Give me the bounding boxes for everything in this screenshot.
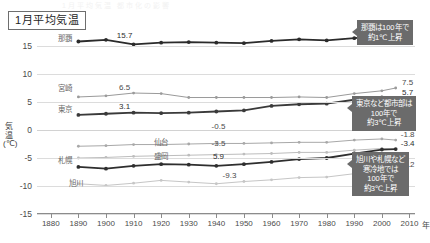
data-point-仙台-2005 bbox=[394, 139, 397, 142]
data-point-仙台-2000 bbox=[380, 138, 383, 141]
x-tick-label-1910: 1910 bbox=[125, 219, 143, 228]
urban-callout: 東京など都市部は100年で約3℃上昇 bbox=[352, 96, 416, 131]
gridline-y-10 bbox=[37, 74, 415, 75]
x-tick-label-2000: 2000 bbox=[373, 219, 391, 228]
urban-callout-line-1: 100年で bbox=[356, 109, 412, 119]
data-point-盛岡-1970 bbox=[298, 151, 301, 154]
y-tick-label-0: 0 bbox=[27, 125, 32, 135]
y-tick-label-15: 15 bbox=[23, 41, 32, 51]
x-tick-label-1960: 1960 bbox=[263, 219, 281, 228]
data-point-宮崎-1940 bbox=[215, 96, 218, 99]
cold-region-callout-line-3: 約3℃上昇 bbox=[356, 184, 405, 194]
data-point-東京-1920 bbox=[159, 111, 163, 115]
data-point-那覇-1950 bbox=[242, 41, 246, 45]
data-point-宮崎-1980 bbox=[325, 96, 328, 99]
data-point-宮崎-1970 bbox=[298, 96, 301, 99]
data-point-東京-1960 bbox=[270, 104, 274, 108]
chart-root: 1月平均気温 都市化の影響 1月平均気温 気温(℃) 151050-5-10-1… bbox=[0, 0, 430, 243]
cold-region-callout-tail bbox=[347, 160, 352, 168]
data-point-札幌-1890 bbox=[76, 165, 80, 169]
x-tick-label-1880: 1880 bbox=[42, 219, 60, 228]
x-tick-label-1940: 1940 bbox=[207, 219, 225, 228]
data-point-那覇-1930 bbox=[187, 40, 191, 44]
series-layer bbox=[37, 32, 337, 182]
end-value-label-宮崎: 7.5 bbox=[402, 78, 413, 87]
data-point-旭川-1970 bbox=[298, 176, 301, 179]
data-point-那覇-1890 bbox=[76, 40, 80, 44]
urban-callout-tail bbox=[347, 104, 352, 112]
x-tick-1990 bbox=[354, 214, 355, 218]
x-tick-1980 bbox=[327, 214, 328, 218]
data-point-宮崎-1910 bbox=[132, 92, 135, 95]
x-tick-label-1990: 1990 bbox=[345, 219, 363, 228]
data-point-那覇-1970 bbox=[297, 37, 301, 41]
x-tick-label-1890: 1890 bbox=[69, 219, 87, 228]
y-tick-label-5: 5 bbox=[27, 97, 32, 107]
naha-callout-line-1: 約1℃上昇 bbox=[361, 33, 409, 43]
end-value-label-仙台: -1.8 bbox=[401, 130, 415, 139]
data-point-札幌-1910 bbox=[132, 164, 136, 168]
y-tick-label--10: -10 bbox=[20, 181, 32, 191]
x-tick-1950 bbox=[244, 214, 245, 218]
data-point-東京-1950 bbox=[242, 109, 246, 113]
series-name-label-札幌: 札幌 bbox=[58, 154, 72, 165]
data-point-札幌-1900 bbox=[104, 167, 108, 171]
data-point-仙台-1890 bbox=[77, 145, 80, 148]
series-line-仙台 bbox=[78, 139, 395, 146]
data-point-札幌-1960 bbox=[270, 160, 274, 164]
end-value-label-札幌: -3.4 bbox=[401, 139, 415, 148]
x-tick-1930 bbox=[189, 214, 190, 218]
value-label-東京: 3.1 bbox=[119, 101, 130, 110]
x-tick-label-1930: 1930 bbox=[180, 219, 198, 228]
data-point-旭川-1960 bbox=[270, 178, 273, 181]
data-point-那覇-1900 bbox=[104, 38, 108, 42]
data-point-札幌-1930 bbox=[187, 163, 191, 167]
data-point-札幌-2005 bbox=[394, 147, 398, 151]
value-label-宮崎: 6.5 bbox=[119, 82, 130, 91]
x-tick-1900 bbox=[106, 214, 107, 218]
series-name-label-盛岡: 盛岡 bbox=[154, 149, 168, 160]
data-point-旭川-1940 bbox=[215, 182, 218, 185]
value-label-旭川: -9.3 bbox=[223, 171, 237, 180]
data-point-仙台-1900 bbox=[105, 144, 108, 147]
data-point-東京-1930 bbox=[187, 111, 191, 115]
data-point-宮崎-1960 bbox=[270, 96, 273, 99]
x-tick-label-1980: 1980 bbox=[318, 219, 336, 228]
x-tick-label-1970: 1970 bbox=[290, 219, 308, 228]
y-axis-title: 気温(℃) bbox=[3, 123, 15, 149]
data-point-仙台-1990 bbox=[353, 139, 356, 142]
data-point-東京-1910 bbox=[132, 111, 136, 115]
x-tick-label-1900: 1900 bbox=[97, 219, 115, 228]
data-point-宮崎-1890 bbox=[77, 96, 80, 99]
data-point-旭川-1920 bbox=[160, 179, 163, 182]
series-name-label-那覇: 那覇 bbox=[58, 32, 72, 43]
data-point-札幌-2000 bbox=[380, 148, 384, 152]
x-tick-2010 bbox=[409, 214, 410, 218]
y-tick-label--15: -15 bbox=[20, 209, 32, 219]
data-point-那覇-1980 bbox=[325, 39, 329, 43]
x-tick-1910 bbox=[134, 214, 135, 218]
data-point-東京-1900 bbox=[104, 112, 108, 116]
value-label-札幌: 5.9 bbox=[213, 152, 224, 161]
data-point-札幌-1920 bbox=[159, 162, 163, 166]
data-point-仙台-1960 bbox=[270, 141, 273, 144]
data-point-札幌-1950 bbox=[242, 162, 246, 166]
cold-region-callout-line-0: 旭川や札幌など bbox=[356, 155, 405, 165]
data-point-仙台-1930 bbox=[187, 143, 190, 146]
data-point-仙台-1910 bbox=[132, 143, 135, 146]
naha-callout-line-0: 那覇は100年で bbox=[361, 23, 409, 33]
naha-callout: 那覇は100年で約1℃上昇 bbox=[357, 20, 413, 45]
value-label-仙台: -0.5 bbox=[212, 121, 226, 130]
x-tick-1890 bbox=[78, 214, 79, 218]
data-point-那覇-1990 bbox=[352, 36, 356, 40]
series-name-label-仙台: 仙台 bbox=[154, 135, 168, 146]
gridline-y--15 bbox=[37, 214, 415, 215]
series-line-旭川 bbox=[78, 170, 395, 185]
data-point-宮崎-2000 bbox=[380, 89, 383, 92]
data-point-那覇-1960 bbox=[270, 39, 274, 43]
data-point-盛岡-1960 bbox=[270, 152, 273, 155]
x-tick-2000 bbox=[382, 214, 383, 218]
data-point-盛岡-1980 bbox=[325, 151, 328, 154]
value-label-那覇: 15.7 bbox=[117, 31, 133, 40]
x-tick-1880 bbox=[51, 214, 52, 218]
